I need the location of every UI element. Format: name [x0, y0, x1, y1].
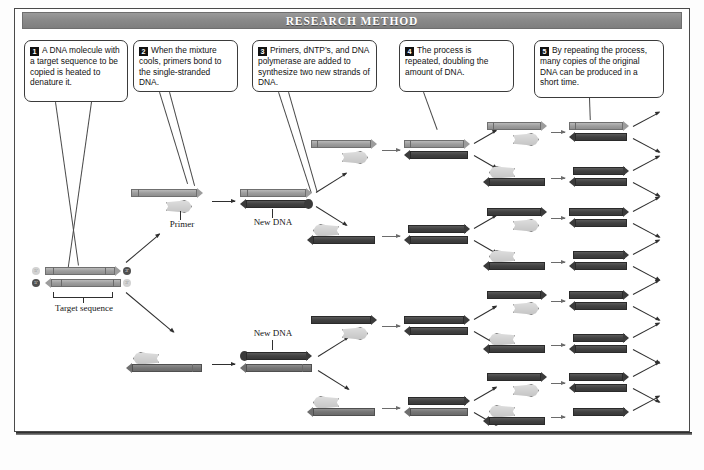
end-mark-3prime-topright: 3′: [123, 267, 131, 275]
cycle3-4-product-bottom: [569, 262, 629, 270]
cycle3-7-template: [487, 373, 547, 381]
end-mark-5prime-bottomleft: 5′: [32, 279, 40, 287]
cycle1-upper-product-top: [240, 189, 312, 197]
cycle3-5-primer: [513, 302, 539, 315]
arrow-cycle2-d: [382, 408, 400, 409]
cycle1-upper-product-bottom: [240, 200, 312, 208]
end-mark-3prime-bottomright: 3′: [123, 279, 131, 287]
new-dna-upper-label: New DNA: [245, 217, 301, 228]
arrow-cycle3-5: [551, 301, 565, 302]
cycle2-a-product-bottom: [404, 151, 470, 159]
new-dna-lower-label: New DNA: [245, 328, 301, 339]
cycle2-d-template: [307, 408, 377, 416]
callout-3-badge: 3: [258, 47, 267, 56]
arrow-cycle2-a: [382, 150, 400, 151]
callout-4-badge: 4: [405, 47, 414, 56]
cycle3-7-primer: [513, 384, 539, 397]
callout-4: 4The process is repeated, doubling the a…: [399, 40, 514, 92]
new-dna-lower-leader: [272, 340, 273, 350]
callout-1: 1A DNA molecule with a target sequence t…: [24, 40, 128, 102]
cycle1-lower-product-bottom: [240, 364, 314, 372]
target-sequence-bracket: [53, 292, 113, 298]
cycle2-a-product-top: [404, 140, 470, 148]
cycle2-b-product-bottom: [404, 236, 470, 244]
cycle3-1-product-top: [569, 122, 629, 130]
callout-5-text: By repeating the process, many copies of…: [540, 45, 647, 87]
callout-5-badge: 5: [540, 47, 549, 56]
cycle1-lower-template: [126, 364, 204, 372]
cycle3-5-product-top: [569, 291, 629, 299]
cycle3-3-primer: [513, 219, 539, 232]
cycle3-3-product-bottom: [569, 219, 629, 227]
cycle3-1-product-bottom: [569, 133, 629, 141]
cycle3-2-product-top: [569, 167, 629, 175]
arrow-cycle1-lower: [212, 364, 235, 365]
callout-2: 2When the mixture cools, primers bond to…: [133, 40, 238, 92]
original-strand-top: [45, 267, 121, 275]
cycle2-b-product-top: [404, 225, 470, 233]
end-mark-5prime-topleft: 5′: [32, 267, 40, 275]
cycle2-c-product-bottom: [404, 327, 470, 335]
figure-title: RESEARCH METHOD: [23, 13, 681, 29]
callout-5: 5By repeating the process, many copies o…: [534, 40, 664, 98]
cycle2-b-template: [307, 236, 377, 244]
figure-frame-shadow: [16, 432, 692, 435]
original-strand-bottom: [45, 279, 121, 287]
arrow-cycle1-upper: [212, 201, 235, 202]
callout-2-badge: 2: [139, 47, 148, 56]
cycle3-2-product-bottom: [569, 178, 629, 186]
cycle1-lower-product-top: [240, 352, 314, 360]
arrow-cycle3-1: [551, 132, 565, 133]
arrow-cycle3-8: [551, 417, 565, 418]
callout-2-text: When the mixture cools, primers bond to …: [139, 45, 221, 87]
callout-3: 3Primers, dNTP’s, and DNA polymerase are…: [252, 40, 377, 92]
arrow-cycle3-2: [551, 178, 565, 179]
arrow-cycle2-b: [382, 236, 400, 237]
cycle3-3-product-top: [569, 208, 629, 216]
cycle2-d-product-top: [404, 397, 470, 405]
cycle3-5-template: [487, 291, 547, 299]
target-sequence-label: Target sequence: [48, 303, 120, 314]
arrow-cycle3-7: [551, 383, 565, 384]
figure-header-bar: RESEARCH METHOD: [22, 12, 682, 29]
cycle3-8-product-top: [569, 408, 629, 416]
callout-4-text: The process is repeated, doubling the am…: [405, 45, 488, 77]
cycle3-7-product-top: [569, 373, 629, 381]
cycle2-c-product-top: [404, 316, 470, 324]
cycle3-1-template: [487, 122, 547, 130]
cycle3-6-product-top: [569, 334, 629, 342]
cycle1-upper-primer: [166, 200, 192, 213]
cycle2-c-primer: [342, 327, 368, 340]
cycle2-a-primer: [342, 151, 368, 164]
cycle3-4-product-top: [569, 251, 629, 259]
callout-1-text: A DNA molecule with a target sequence to…: [30, 45, 120, 87]
cycle2-a-template: [311, 140, 377, 148]
callout-1-badge: 1: [30, 47, 39, 56]
cycle2-c-template: [311, 316, 377, 324]
cycle3-5-product-bottom: [569, 302, 629, 310]
cycle3-3-template: [487, 208, 547, 216]
cycle3-6-product-bottom: [569, 345, 629, 353]
cycle3-4-template: [483, 262, 547, 270]
callout-3-text: Primers, dNTP’s, and DNA polymerase are …: [258, 45, 370, 87]
primer-label: Primer: [158, 219, 206, 230]
arrow-cycle3-4: [551, 262, 565, 263]
cycle1-upper-template: [131, 189, 203, 197]
cycle2-d-product-bottom: [404, 408, 470, 416]
arrow-cycle3-6: [551, 345, 565, 346]
cycle3-2-template: [483, 178, 547, 186]
arrow-cycle3-3: [551, 218, 565, 219]
cycle3-6-template: [483, 345, 547, 353]
cycle3-7-product-bottom: [569, 384, 629, 392]
arrow-cycle2-c: [382, 326, 400, 327]
cycle3-1-primer: [513, 133, 539, 146]
figure-root: RESEARCH METHOD 1A DNA molecule with a t…: [0, 0, 704, 470]
cycle3-8-template: [483, 417, 547, 425]
